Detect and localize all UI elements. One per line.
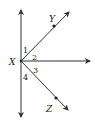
point-z-dot [54,96,57,99]
vertex-x-dot [20,60,23,63]
angle-label-3: 3 [33,66,38,75]
ray-xy [21,12,69,61]
ray-xz [21,61,68,110]
angle-label-1: 1 [23,46,28,55]
angle-label-4: 4 [23,73,28,82]
label-x: X [8,57,16,67]
point-y-dot [52,24,55,27]
angle-label-2: 2 [32,53,37,62]
angle-diagram: Y X Z 1 2 3 4 [0,0,95,121]
label-y: Y [49,14,56,24]
label-z: Z [45,104,53,114]
